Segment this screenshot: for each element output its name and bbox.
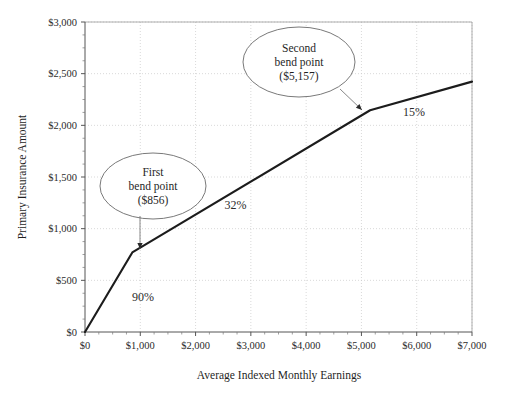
callout-line: Second bbox=[282, 42, 316, 54]
callout-line: bend point bbox=[129, 180, 179, 193]
y-tick-label: $2,500 bbox=[48, 68, 77, 79]
x-axis-title: Average Indexed Monthly Earnings bbox=[197, 369, 362, 382]
callout-line: ($856) bbox=[138, 194, 169, 207]
x-tick-label: $3,000 bbox=[236, 340, 265, 351]
y-tick-label: $500 bbox=[56, 275, 77, 286]
y-tick-label: $1,000 bbox=[48, 223, 77, 234]
rate-label-15pct: 15% bbox=[403, 105, 425, 119]
callout-line: First bbox=[142, 166, 164, 178]
chart-container: $0$1,000$2,000$3,000$4,000$5,000$6,000$7… bbox=[0, 0, 513, 395]
x-tick-label: $5,000 bbox=[347, 340, 376, 351]
x-tick-label: $6,000 bbox=[402, 340, 431, 351]
x-tick-label: $7,000 bbox=[458, 340, 487, 351]
y-tick-label: $1,500 bbox=[48, 172, 77, 183]
x-tick-label: $0 bbox=[80, 340, 91, 351]
pia-bend-point-chart: $0$1,000$2,000$3,000$4,000$5,000$6,000$7… bbox=[0, 0, 513, 395]
y-tick-label: $0 bbox=[67, 327, 78, 338]
y-axis-title: Primary Insurance Amount bbox=[16, 114, 29, 239]
x-tick-label: $4,000 bbox=[292, 340, 321, 351]
callout-line: bend point bbox=[275, 56, 325, 69]
x-tick-label: $2,000 bbox=[181, 340, 210, 351]
y-tick-label: $2,000 bbox=[48, 120, 77, 131]
rate-label-90pct: 90% bbox=[132, 290, 154, 304]
callout-line: ($5,157) bbox=[279, 70, 318, 83]
x-tick-label: $1,000 bbox=[126, 340, 155, 351]
rate-label-32pct: 32% bbox=[224, 198, 246, 212]
y-tick-label: $3,000 bbox=[48, 17, 77, 28]
